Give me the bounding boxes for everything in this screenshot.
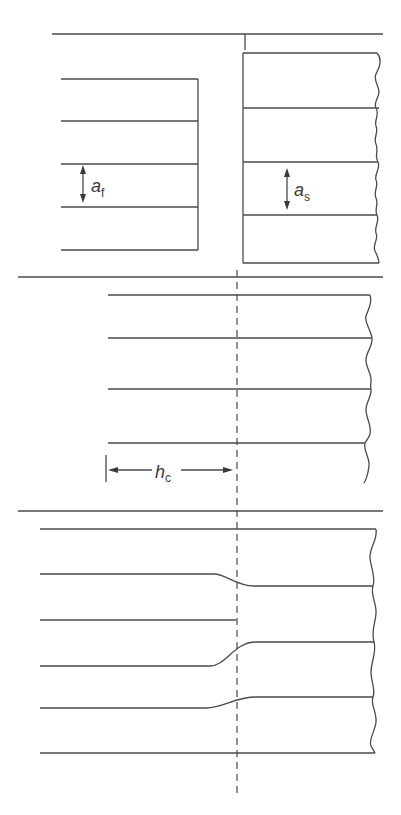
a-s-dimension-arrow — [284, 168, 290, 210]
layered-sheets-diagram: af as — [0, 0, 401, 815]
deformed-layer-lines — [40, 529, 376, 753]
label-a-f: af — [91, 176, 105, 200]
label-h-c: hc — [155, 462, 171, 485]
a-f-dimension-arrow — [80, 165, 86, 203]
stacked-layer-box — [243, 53, 380, 263]
middle-layer-lines — [108, 295, 372, 483]
wavy-break-edge — [374, 53, 380, 263]
bottom-panel — [18, 511, 383, 753]
top-panel: af as — [52, 34, 383, 263]
label-a-s: as — [294, 180, 310, 204]
middle-panel: hc — [18, 277, 383, 485]
wavy-break-edge — [370, 529, 376, 753]
free-layer-stack — [61, 79, 198, 250]
